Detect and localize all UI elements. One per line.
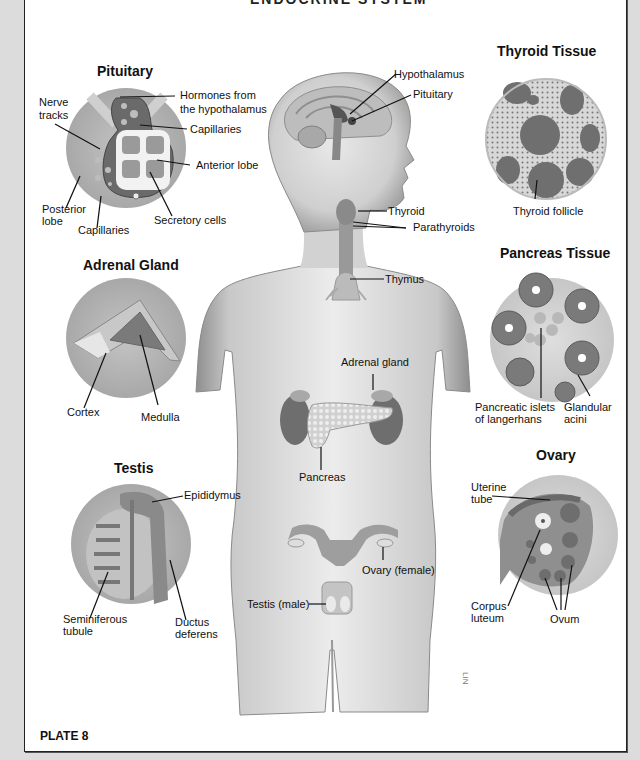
pancreas-tissue-title: Pancreas Tissue	[500, 245, 610, 261]
label-epididymus: Epididymus	[184, 489, 241, 502]
label-corpus-2: luteum	[471, 612, 504, 625]
ovary-inset	[498, 475, 618, 595]
thyroid-tissue-title: Thyroid Tissue	[497, 43, 596, 59]
label-acini-2: acini	[564, 413, 587, 426]
label-adrenal-gland: Adrenal gland	[341, 356, 409, 369]
label-pituitary: Pituitary	[413, 88, 453, 101]
adrenal-title: Adrenal Gland	[83, 257, 179, 273]
label-hormones-2: the hypothalamus	[180, 103, 267, 116]
adrenal-inset	[66, 278, 186, 398]
plate-number: PLATE 8	[40, 729, 88, 743]
label-capillaries-bottom: Capillaries	[78, 224, 129, 237]
label-hormones-1: Hormones from	[180, 89, 256, 102]
label-ovary-female: Ovary (female)	[362, 564, 435, 577]
label-seminiferous-2: tubule	[63, 625, 93, 638]
label-ovum: Ovum	[550, 613, 579, 626]
label-uterine-2: tube	[471, 493, 492, 506]
pancreas-tissue-inset	[490, 273, 614, 402]
label-hypothalamus: Hypothalamus	[394, 68, 464, 81]
label-thyroid: Thyroid	[388, 205, 425, 218]
label-ductus-2: deferens	[175, 628, 218, 641]
label-posterior-2: lobe	[42, 215, 63, 228]
label-testis-male: Testis (male)	[247, 598, 309, 611]
pituitary-title: Pituitary	[97, 63, 153, 79]
label-medulla: Medulla	[141, 411, 180, 424]
ovary-title: Ovary	[536, 447, 576, 463]
testis-title: Testis	[114, 460, 153, 476]
anatomy-illustration: LIN	[0, 0, 640, 760]
label-thyroid-follicle: Thyroid follicle	[513, 205, 583, 218]
label-pancreas: Pancreas	[299, 471, 345, 484]
label-nerve-2: tracks	[39, 109, 68, 122]
label-cortex: Cortex	[67, 406, 99, 419]
label-secretory-cells: Secretory cells	[154, 214, 226, 227]
thyroid-tissue-inset	[486, 79, 606, 199]
label-capillaries-top: Capillaries	[190, 123, 241, 136]
label-nerve-1: Nerve	[39, 96, 68, 109]
pituitary-inset	[66, 88, 186, 208]
label-thymus: Thymus	[385, 273, 424, 286]
artist-signature: LIN	[461, 672, 470, 685]
testis-inset	[71, 484, 191, 604]
label-islets-2: of langerhans	[475, 413, 542, 426]
label-parathyroids: Parathyroids	[413, 221, 475, 234]
label-anterior-lobe: Anterior lobe	[196, 159, 258, 172]
